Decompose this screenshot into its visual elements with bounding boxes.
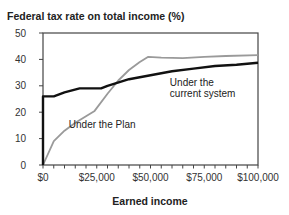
y-tick-label: 20 bbox=[15, 107, 27, 118]
chart-title: Federal tax rate on total income (%) bbox=[7, 10, 184, 22]
plan-line bbox=[43, 55, 258, 165]
x-axis-label: Earned income bbox=[112, 195, 187, 207]
y-tick-label: 10 bbox=[15, 133, 27, 144]
y-tick-label: 50 bbox=[15, 28, 27, 39]
x-axis: $0$25,000$50,000$75,000$100,000 bbox=[37, 165, 279, 183]
current-system-line bbox=[43, 63, 258, 165]
series-group bbox=[43, 55, 258, 165]
annotations: Under thecurrent systemUnder the Plan bbox=[69, 77, 236, 130]
plot-border bbox=[43, 33, 258, 165]
current-system-annotation: Under thecurrent system bbox=[170, 77, 236, 99]
x-tick-label: $50,000 bbox=[132, 172, 169, 183]
line-chart: Federal tax rate on total income (%) 010… bbox=[0, 0, 289, 215]
plan-annotation: Under the Plan bbox=[69, 119, 136, 130]
y-tick-label: 0 bbox=[20, 160, 26, 171]
x-tick-label: $25,000 bbox=[79, 172, 116, 183]
x-tick-label: $0 bbox=[37, 172, 49, 183]
chart-container: Federal tax rate on total income (%) 010… bbox=[0, 0, 289, 215]
x-tick-label: $100,000 bbox=[237, 172, 279, 183]
y-tick-label: 30 bbox=[15, 80, 27, 91]
plot-frame bbox=[43, 33, 258, 165]
x-tick-label: $75,000 bbox=[186, 172, 223, 183]
y-tick-label: 40 bbox=[15, 54, 27, 65]
y-axis: 01020304050 bbox=[15, 28, 43, 171]
